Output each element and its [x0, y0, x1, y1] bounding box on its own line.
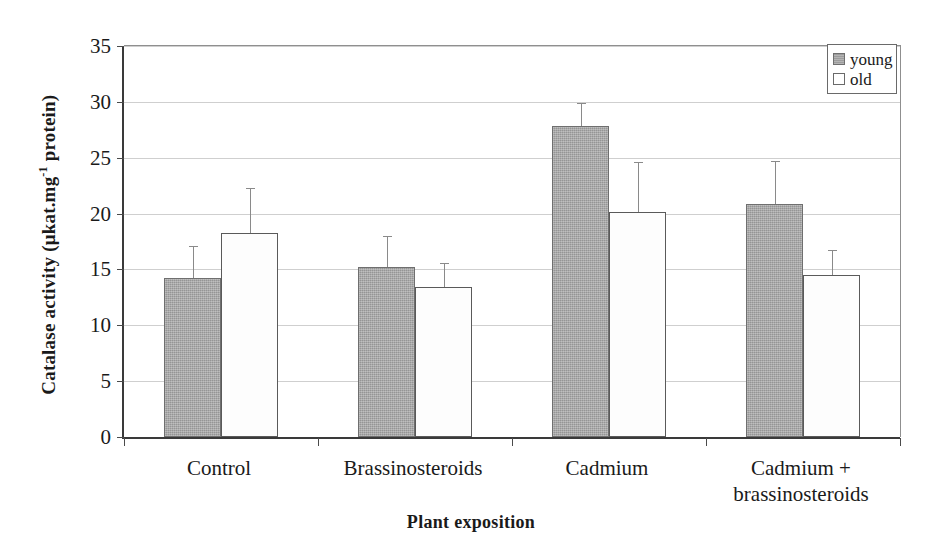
- x-tick: [706, 438, 707, 446]
- legend-swatch-young-icon: [833, 53, 845, 65]
- y-tick-label: 15: [90, 257, 111, 282]
- error-cap-old-0: [246, 188, 255, 189]
- y-tick: [117, 325, 124, 326]
- y-tick-label: 30: [90, 89, 111, 114]
- x-tick: [124, 438, 125, 446]
- gridline: [124, 102, 900, 103]
- y-tick: [117, 437, 124, 438]
- y-tick-label: 10: [90, 313, 111, 338]
- y-tick: [117, 46, 124, 47]
- x-tick: [512, 438, 513, 446]
- error-bar-young-1: [387, 236, 388, 267]
- legend-item-young: young: [833, 49, 891, 69]
- y-axis-title-prefix: Catalase activity (μkat.mg: [38, 177, 59, 395]
- error-cap-young-1: [383, 236, 392, 237]
- y-tick: [117, 102, 124, 103]
- y-tick-label: 20: [90, 201, 111, 226]
- error-bar-young-2: [581, 103, 582, 126]
- error-cap-young-2: [577, 103, 586, 104]
- x-tick: [318, 438, 319, 446]
- legend-item-old: old: [833, 69, 891, 89]
- y-axis-title: Catalase activity (μkat.mg-1 protein): [36, 45, 59, 445]
- y-axis-title-superscript: -1: [36, 166, 50, 176]
- error-cap-old-1: [440, 263, 449, 264]
- y-tick-label: 5: [101, 369, 112, 394]
- bar-old-2: [609, 212, 666, 437]
- legend-label-old: old: [850, 71, 872, 88]
- bar-young-2: [552, 126, 609, 437]
- y-tick: [117, 381, 124, 382]
- y-tick-label: 35: [90, 34, 111, 59]
- y-axis-title-suffix: protein): [38, 95, 59, 167]
- plot-right-border: [900, 45, 901, 437]
- bar-old-1: [415, 287, 472, 437]
- legend: young old: [827, 44, 897, 94]
- bar-old-0: [221, 233, 278, 437]
- y-tick: [117, 269, 124, 270]
- y-tick-label: 25: [90, 145, 111, 170]
- y-tick: [117, 158, 124, 159]
- bar-young-1: [358, 267, 415, 437]
- gridline: [124, 46, 900, 47]
- x-tick: [900, 438, 901, 446]
- legend-swatch-old-icon: [833, 73, 845, 85]
- error-bar-old-0: [250, 188, 251, 233]
- error-cap-young-0: [189, 246, 198, 247]
- error-cap-old-3: [828, 250, 837, 251]
- legend-label-young: young: [850, 51, 893, 68]
- error-bar-old-2: [638, 162, 639, 212]
- y-tick: [117, 214, 124, 215]
- catalase-activity-bar-chart: Catalase activity (μkat.mg-1 protein) 05…: [0, 0, 942, 554]
- error-bar-young-0: [193, 246, 194, 278]
- y-tick-label: 0: [101, 425, 112, 450]
- error-bar-young-3: [775, 161, 776, 203]
- error-bar-old-3: [832, 250, 833, 275]
- error-cap-young-3: [771, 161, 780, 162]
- error-cap-old-2: [634, 162, 643, 163]
- x-category-label: Cadmium + brassinosteroids: [681, 455, 921, 507]
- bar-young-0: [164, 278, 221, 437]
- bar-young-3: [746, 204, 803, 437]
- x-axis-title: Plant exposition: [0, 512, 942, 533]
- plot-area: 05101520253035: [122, 46, 900, 439]
- error-bar-old-1: [444, 263, 445, 288]
- gridline: [124, 158, 900, 159]
- bar-old-3: [803, 275, 860, 437]
